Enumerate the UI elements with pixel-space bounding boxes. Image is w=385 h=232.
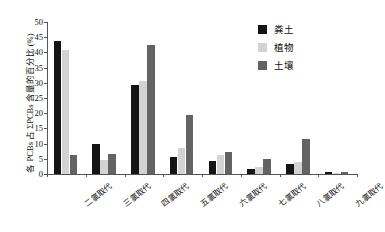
- bar: [217, 155, 224, 174]
- bar-group: [318, 22, 357, 174]
- bar: [247, 169, 254, 174]
- bar: [302, 139, 309, 174]
- x-tick-mark: [47, 174, 48, 177]
- bar: [255, 167, 262, 174]
- x-tick-mark: [202, 174, 203, 177]
- x-tick-mark: [125, 174, 126, 177]
- legend-swatch-icon: [258, 43, 267, 52]
- bar: [62, 50, 69, 174]
- bar: [170, 157, 177, 174]
- legend-swatch-icon: [258, 61, 267, 70]
- legend-swatch-icon: [258, 25, 267, 34]
- bar: [100, 160, 107, 174]
- legend-item[interactable]: 粪土: [258, 20, 294, 38]
- plot-area: 05101520253035404550 二氯取代三氯取代四氯取代五氯取代六氯取…: [47, 22, 357, 174]
- legend: 粪土植物土壤: [258, 20, 294, 74]
- x-tick-label: 七氯取代: [275, 180, 307, 208]
- x-tick-mark: [241, 174, 242, 177]
- legend-label: 粪土: [274, 22, 294, 36]
- bar: [341, 172, 348, 174]
- bar: [286, 164, 293, 174]
- y-tick-label: 35: [21, 64, 43, 72]
- bar: [263, 159, 270, 174]
- legend-item[interactable]: 植物: [258, 38, 294, 56]
- y-tick-label: 40: [21, 48, 43, 56]
- y-tick-label: 10: [21, 140, 43, 148]
- bar: [225, 152, 232, 174]
- y-tick-label: 30: [21, 79, 43, 87]
- bar: [333, 173, 340, 174]
- legend-label: 土壤: [274, 58, 294, 72]
- legend-item[interactable]: 土壤: [258, 56, 294, 74]
- y-tick-label: 5: [21, 155, 43, 163]
- x-tick-mark: [86, 174, 87, 177]
- x-tick-label: 二氯取代: [82, 180, 114, 208]
- bar: [92, 144, 99, 174]
- bar-group: [202, 22, 241, 174]
- bar: [139, 81, 146, 174]
- y-tick-label: 0: [21, 170, 43, 178]
- bar-group: [163, 22, 202, 174]
- y-tick-label: 50: [21, 18, 43, 26]
- x-tick-label: 四氯取代: [159, 180, 191, 208]
- x-tick-mark: [280, 174, 281, 177]
- bar: [294, 162, 301, 174]
- bar: [54, 41, 61, 174]
- bar: [209, 161, 216, 174]
- y-tick-label: 20: [21, 109, 43, 117]
- x-tick-mark: [357, 174, 358, 177]
- bar: [108, 154, 115, 174]
- y-tick-label: 45: [21, 33, 43, 41]
- x-tick-label: 六氯取代: [237, 180, 269, 208]
- x-tick-label: 九氯取代: [353, 180, 385, 208]
- y-tick-label: 25: [21, 94, 43, 102]
- bar: [178, 148, 185, 174]
- bar-group: [125, 22, 164, 174]
- x-tick-mark: [318, 174, 319, 177]
- bar: [325, 172, 332, 174]
- x-tick-label: 五氯取代: [198, 180, 230, 208]
- bar-group: [47, 22, 86, 174]
- bar: [186, 115, 193, 174]
- x-tick-mark: [163, 174, 164, 177]
- x-tick-label: 八氯取代: [314, 180, 346, 208]
- bar-group: [86, 22, 125, 174]
- legend-label: 植物: [274, 40, 294, 54]
- bar: [147, 45, 154, 174]
- x-tick-label: 三氯取代: [120, 180, 152, 208]
- bar: [70, 155, 77, 174]
- bar: [131, 85, 138, 174]
- y-tick-label: 15: [21, 124, 43, 132]
